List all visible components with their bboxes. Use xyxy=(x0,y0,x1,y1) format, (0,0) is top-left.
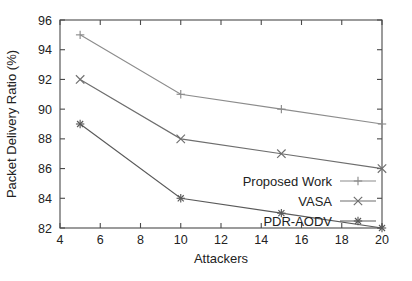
x-tick-label-10: 10 xyxy=(174,233,188,247)
line-chart: 468101214161820 8284868890929496 Propose… xyxy=(0,0,412,281)
y-tick-label-88: 88 xyxy=(38,132,52,146)
data-point-2-1 xyxy=(177,194,185,202)
x-tick-label-4: 4 xyxy=(57,233,64,247)
legend-label-vasa: VASA xyxy=(298,194,332,209)
y-tick-label-94: 94 xyxy=(38,43,52,57)
x-tick-label-6: 6 xyxy=(97,233,104,247)
data-point-0-3 xyxy=(378,120,386,128)
y-tick-label-86: 86 xyxy=(38,162,52,176)
chart-figure: 468101214161820 8284868890929496 Propose… xyxy=(0,0,412,281)
chart-legend: Proposed WorkVASAPDR-AODV xyxy=(243,174,376,229)
legend-label-pdr-aodv: PDR-AODV xyxy=(263,214,332,229)
y-axis-title: Packet Delivery Ratio (%) xyxy=(4,50,19,198)
x-tick-label-12: 12 xyxy=(214,233,228,247)
x-axis-tick-labels: 468101214161820 xyxy=(57,233,389,247)
x-tick-label-20: 20 xyxy=(375,233,389,247)
legend-marker-plus xyxy=(354,177,362,185)
series-line-0 xyxy=(80,35,382,124)
series-line-2 xyxy=(80,124,382,228)
data-point-1-0 xyxy=(76,75,84,83)
y-tick-label-90: 90 xyxy=(38,103,52,117)
series-pdr-aodv xyxy=(76,120,386,232)
x-axis-title: Attackers xyxy=(194,251,249,266)
y-tick-label-84: 84 xyxy=(38,192,52,206)
y-tick-label-92: 92 xyxy=(38,73,52,87)
x-tick-label-16: 16 xyxy=(295,233,309,247)
data-point-0-1 xyxy=(177,90,185,98)
data-point-2-0 xyxy=(76,120,84,128)
series-proposed-work xyxy=(76,31,386,129)
data-point-2-3 xyxy=(378,224,386,232)
legend-marker-asterisk xyxy=(354,217,362,225)
data-point-0-0 xyxy=(76,31,84,39)
legend-label-proposed-work: Proposed Work xyxy=(243,174,333,189)
series-vasa xyxy=(76,75,386,173)
y-tick-label-82: 82 xyxy=(38,222,52,236)
x-tick-label-14: 14 xyxy=(254,233,268,247)
data-point-0-2 xyxy=(277,105,285,113)
x-tick-label-8: 8 xyxy=(137,233,144,247)
y-tick-label-96: 96 xyxy=(38,14,52,28)
y-axis-tick-labels: 8284868890929496 xyxy=(38,14,52,236)
series-line-1 xyxy=(80,79,382,168)
data-series-layer xyxy=(76,31,386,233)
x-tick-label-18: 18 xyxy=(335,233,349,247)
